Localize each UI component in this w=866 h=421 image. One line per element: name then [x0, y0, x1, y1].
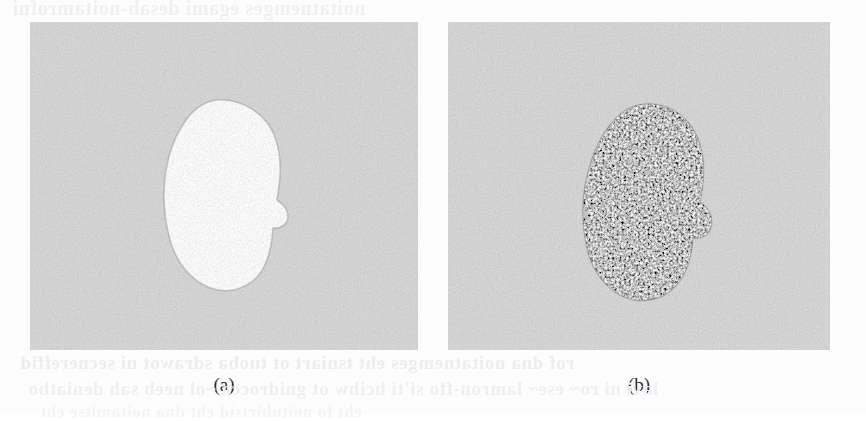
panel-a-image	[30, 22, 418, 350]
caption-panel-a: (a)	[194, 374, 254, 396]
caption-panel-b: (b)	[609, 374, 669, 396]
image-panel-a	[30, 22, 418, 350]
panel-b-image	[448, 22, 830, 350]
image-panel-b	[448, 22, 830, 350]
